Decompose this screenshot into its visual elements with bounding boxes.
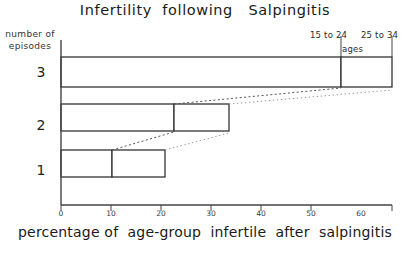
bar-group-2 xyxy=(61,104,229,131)
bar-group-1 xyxy=(61,150,165,177)
bar-1-25to34 xyxy=(112,150,165,177)
bar-1-15to24 xyxy=(61,150,112,177)
legend-divider-lines xyxy=(341,36,392,57)
chart-plot-svg xyxy=(0,0,410,253)
bar-3-15to24 xyxy=(61,57,341,87)
bar-3-25to34 xyxy=(341,57,392,87)
bar-2-25to34 xyxy=(174,104,229,131)
bar-group-3 xyxy=(61,57,392,87)
bar-2-15to24 xyxy=(61,104,174,131)
chart-figure: Infertility following Salpingitis number… xyxy=(0,0,410,253)
